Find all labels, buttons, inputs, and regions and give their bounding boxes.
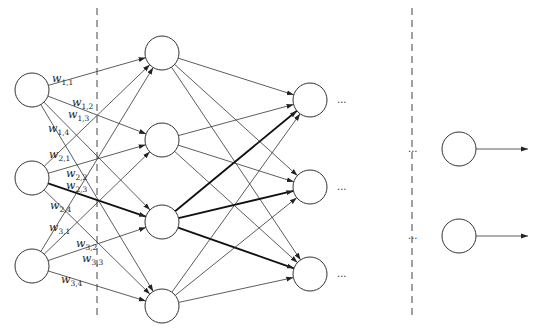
input-neuron-1 xyxy=(15,73,49,107)
input-neuron-2 xyxy=(15,161,49,195)
connection-arrow xyxy=(178,104,293,135)
input-neuron-3 xyxy=(15,249,49,283)
hidden2-neuron-2 xyxy=(293,170,327,204)
connection-arrow xyxy=(175,151,298,262)
hidden1-neuron-3 xyxy=(145,205,179,239)
connection-arrow xyxy=(178,58,294,95)
output-arrows xyxy=(476,149,528,236)
ellipsis-more: ... xyxy=(337,268,347,279)
connection-arrow xyxy=(178,145,294,182)
connection-arrow xyxy=(178,228,294,269)
hidden2-neuron-3 xyxy=(293,257,327,291)
weight-label: w1,1 xyxy=(52,72,73,87)
ellipsis-more: ... xyxy=(408,230,418,241)
ellipsis-more: ... xyxy=(337,181,347,192)
weight-label: w1,4 xyxy=(48,122,70,137)
hidden1-neuron-2 xyxy=(145,123,179,157)
output-neuron-1 xyxy=(442,132,476,166)
hidden1-neuron-1 xyxy=(145,36,179,70)
output-neuron-2 xyxy=(442,219,476,253)
weight-label: w2,1 xyxy=(49,148,70,163)
ellipsis-more: ... xyxy=(408,143,418,154)
weight-label: w2,4 xyxy=(50,199,72,214)
hidden1-neuron-4 xyxy=(145,289,179,323)
connection-arrow xyxy=(179,278,294,303)
hidden2-neuron-1 xyxy=(293,83,327,117)
layer-dividers xyxy=(97,8,412,316)
ellipsis-more: ... xyxy=(337,94,347,105)
neural-network-diagram: w1,1w1,2w1,3w1,4w2,1w2,2w2,3w2,4w3,1w3,2… xyxy=(0,0,539,333)
continuation-ellipses: ............... xyxy=(337,94,418,279)
weight-label: w3,1 xyxy=(49,221,70,236)
connection-arrow xyxy=(172,114,300,292)
weight-label: w3,3 xyxy=(82,252,104,267)
weight-labels: w1,1w1,2w1,3w1,4w2,1w2,2w2,3w2,4w3,1w3,2… xyxy=(48,72,104,288)
connection-arrow xyxy=(175,111,297,211)
weight-label: w3,4 xyxy=(61,273,83,288)
